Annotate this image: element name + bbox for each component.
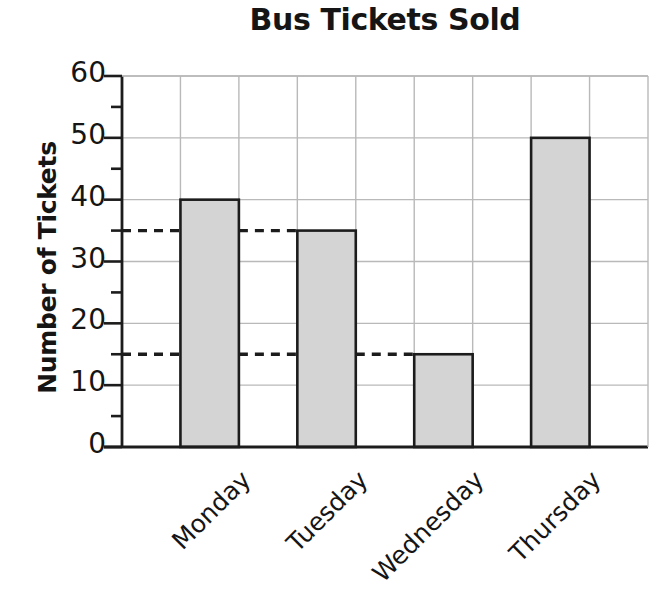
bar-chart: Bus Tickets Sold Number of Tickets 01020…	[0, 0, 656, 613]
x-axis-tick-labels: MondayTuesdayWednesdayThursday	[0, 0, 656, 613]
